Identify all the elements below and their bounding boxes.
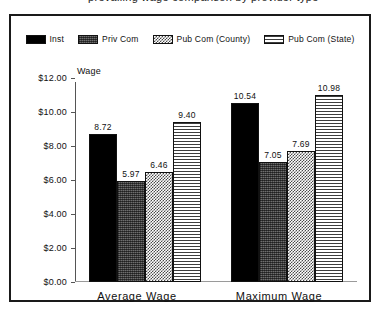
bar-value-label: 7.69 [292,139,309,149]
bar-value-label: 7.05 [264,150,281,160]
legend-item-priv-com: Priv Com [78,34,139,44]
bar-slot: 7.05 [259,78,287,282]
bar-slot: 9.40 [173,78,201,282]
bar [287,151,315,282]
legend-swatch-pub-com-state [264,35,284,44]
bar [173,122,201,282]
legend-swatch-priv-com [78,35,98,44]
y-axis-tick-label: $12.00 [38,73,67,83]
chart-frame: Inst Priv Com Pub Com (County) Pub Com (… [9,14,371,302]
bar-value-label: 9.40 [178,110,195,120]
bar-value-label: 8.72 [94,122,111,132]
y-axis-tick: $12.00 [38,73,75,83]
legend-item-pub-com-county: Pub Com (County) [153,34,251,44]
bar-slot: 7.69 [287,78,315,282]
y-axis-tick-label: $10.00 [38,107,67,117]
y-axis-title: Wage [77,66,101,76]
bar-value-label: 10.98 [318,83,340,93]
bar-slot: 6.46 [145,78,173,282]
y-axis-tick-label: $6.00 [43,175,67,185]
bar [231,103,259,282]
y-axis-tick: $0.00 [43,277,75,287]
y-axis-tick: $2.00 [43,243,75,253]
y-axis-tick: $10.00 [38,107,75,117]
legend-label-pub-com-county: Pub Com (County) [177,34,251,44]
legend-label-priv-com: Priv Com [102,34,139,44]
cropped-header-text-label: prevailing wage comparison by provider t… [88,0,319,3]
bar [117,181,145,282]
plot-area: $0.00$2.00$4.00$6.00$8.00$10.00$12.00 8.… [75,78,355,282]
y-axis-tick-label: $4.00 [43,209,67,219]
bar-value-label: 5.97 [122,169,139,179]
legend-item-pub-com-state: Pub Com (State) [264,34,354,44]
bar-value-label: 6.46 [150,160,167,170]
bar-slot: 8.72 [89,78,117,282]
bar [89,134,117,282]
bar [259,162,287,282]
bar-group: 10.547.057.6910.98 [231,78,343,282]
bar-slot: 10.54 [231,78,259,282]
bar-group: 8.725.976.469.40 [89,78,201,282]
bar [315,95,343,282]
bar-value-label: 10.54 [234,91,256,101]
legend-swatch-pub-com-county [153,35,173,44]
bar-slot: 5.97 [117,78,145,282]
y-axis-tick: $6.00 [43,175,75,185]
y-axis-tick-label: $0.00 [43,277,67,287]
y-axis-tick: $4.00 [43,209,75,219]
chart-legend: Inst Priv Com Pub Com (County) Pub Com (… [11,34,369,44]
legend-label-inst: Inst [50,34,65,44]
y-axis-tick-label: $8.00 [43,141,67,151]
bar-slot: 10.98 [315,78,343,282]
legend-swatch-inst [26,35,46,44]
y-axis-tick-label: $2.00 [43,243,67,253]
bar [145,172,173,282]
y-axis-tick: $8.00 [43,141,75,151]
legend-label-pub-com-state: Pub Com (State) [288,34,354,44]
legend-item-inst: Inst [26,34,65,44]
cropped-header-text: prevailing wage comparison by provider t… [0,0,382,9]
category-label-maximum-wage: Maximum Wage [236,290,322,302]
bar-groups: 8.725.976.469.4010.547.057.6910.98 [75,78,355,282]
category-label-average-wage: Average Wage [97,290,176,302]
